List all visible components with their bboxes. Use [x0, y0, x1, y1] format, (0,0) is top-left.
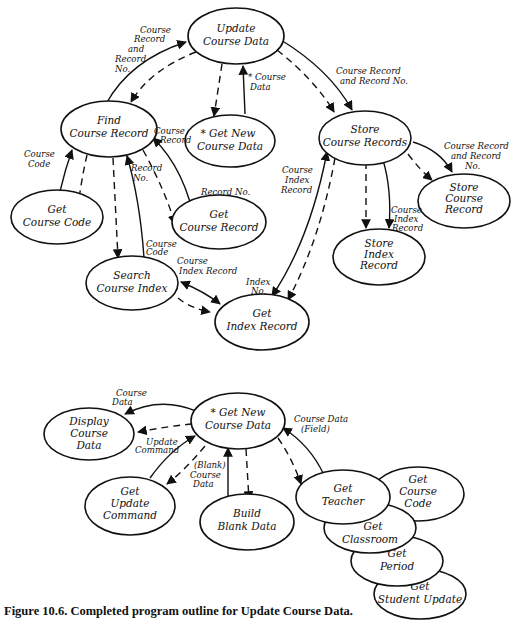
node-label-line: Blank Data — [217, 520, 277, 532]
flow-label-line: Record — [133, 34, 166, 44]
flow-label-course-index-record: Course Index Record — [280, 165, 313, 195]
flow-label-line: Course — [177, 256, 208, 266]
node-label-line: Get — [48, 203, 68, 215]
flow-label-line: Record — [159, 135, 192, 145]
flow-label-course-data: * Course Data — [248, 72, 286, 92]
flow-label-line: Record — [280, 185, 313, 195]
node-get-new-course-data-top: * Get New Course Data — [185, 115, 275, 167]
node-label-line: Get — [210, 208, 230, 220]
node-label-line: Get — [121, 485, 141, 497]
node-label-line: Store — [351, 123, 380, 135]
flow-label-line: Record No. — [200, 187, 250, 197]
node-label-line: Course Code — [23, 216, 91, 228]
edge-find-to-getrecord-dashed — [143, 150, 175, 224]
flow-label-line: (Blank) — [194, 460, 226, 470]
flow-label-course-index-record-search: Course Index Record — [177, 256, 238, 276]
edge-getnew-to-display — [125, 404, 196, 414]
figure-caption: Figure 10.6. Completed program outline f… — [4, 604, 353, 619]
node-label-line: Search — [113, 269, 150, 281]
edge-getnew-to-blank-dashed — [246, 449, 249, 500]
flow-label-line: Course — [282, 165, 313, 175]
node-label-line: Command — [103, 509, 157, 521]
flow-label-line: and Record — [451, 151, 502, 161]
node-label-line: Update — [111, 497, 150, 509]
node-label-line: Get — [253, 307, 273, 319]
edge-store-to-storeindex-solid — [383, 160, 390, 228]
node-store-index-record: Store Index Record — [333, 229, 425, 285]
node-find-course-record: Find Course Record — [61, 101, 157, 157]
flow-label-course-code: Course Code — [24, 149, 55, 169]
node-label-line: Find — [96, 114, 121, 126]
node-get-course-code: Get Course Code — [11, 190, 103, 244]
flow-label-line: Command — [135, 445, 180, 455]
flow-label-line: Record — [114, 54, 147, 64]
edge-getnew-to-update — [243, 66, 245, 114]
flow-label-index-no: Index No. — [245, 277, 271, 296]
node-get-update-command: Get Update Command — [85, 477, 175, 535]
flow-label-line: Code — [28, 159, 50, 169]
flow-label-course-data-display: Course Data — [111, 388, 147, 407]
node-label-line: Record — [359, 259, 398, 271]
node-label-line: Course — [70, 427, 108, 439]
flow-label-line: Record — [130, 163, 163, 173]
flow-label-line: and — [128, 44, 145, 54]
flow-label-line: Record — [391, 223, 424, 233]
flow-label-course-code-search: Course Code — [146, 239, 177, 257]
flow-label-line: Data — [111, 397, 133, 407]
edge-getnew-to-teacher-dashed — [278, 438, 301, 484]
flow-label-course-record-and-record-no: Course Record and Record No. — [114, 25, 171, 74]
edge-find-to-search-dashed — [113, 158, 118, 258]
node-search-course-index: Search Course Index — [86, 256, 178, 310]
flow-label-line: Course — [24, 149, 55, 159]
node-label-line: Course Record — [179, 221, 258, 233]
flow-label-course-record-and-record-no-right: Course Record and Record No. — [336, 66, 408, 86]
node-label-line: Get — [334, 482, 354, 494]
node-store-course-record: Store Course Record — [418, 174, 510, 228]
flow-label-course-record: Course Record — [154, 126, 192, 145]
node-label-line: Classroom — [342, 533, 398, 545]
node-label-line: Display — [68, 415, 110, 427]
node-label-line: Teacher — [322, 495, 366, 507]
flow-label-course-record-and-record-no-store: Course Record and Record No. — [444, 141, 509, 171]
edge-search-to-getindex-dashed — [178, 298, 210, 312]
node-label-line: Course Data — [197, 140, 263, 152]
node-label-line: Course Data — [205, 419, 271, 431]
flow-label-line: Course Record — [336, 66, 401, 76]
flow-label-record-no-get: Record No. — [200, 187, 250, 197]
node-label-line: Record — [444, 203, 483, 215]
node-label-line: * Get New — [210, 406, 265, 418]
node-build-blank-data: Build Blank Data — [200, 494, 294, 550]
node-label-line: Get — [364, 520, 384, 532]
flow-label-record-no: Record No. — [130, 163, 163, 183]
flow-label-line: No. — [250, 286, 266, 296]
flow-label-line: No. — [464, 161, 480, 171]
node-label-line: Data — [75, 439, 101, 451]
flow-label-line: Course Record — [444, 141, 509, 151]
node-label-line: Course Records — [323, 136, 408, 148]
flow-label-line: No. — [132, 173, 148, 183]
flow-label-line: Index — [284, 175, 310, 185]
flow-label-line: Index Record — [178, 266, 238, 276]
flow-label-course-data-field: Course Data (Field) — [294, 414, 348, 434]
node-label-line: Course Index — [97, 282, 168, 294]
flow-label-line: Code — [146, 247, 168, 257]
edge-store-to-storecourse-dashed — [408, 154, 432, 180]
node-label-line: Student Update — [378, 593, 462, 605]
node-label-line: Period — [379, 560, 415, 572]
node-label-line: Update — [217, 22, 256, 34]
program-outline-diagram: Update Course Data Find Course Record * … — [0, 0, 532, 631]
node-display-course-data: Display Course Data — [44, 408, 134, 460]
edge-teacher-to-getnew — [283, 428, 324, 475]
node-get-course-record: Get Course Record — [172, 195, 266, 249]
flow-label-line: and Record No. — [340, 76, 408, 86]
node-label-line: Code — [404, 497, 431, 509]
node-update-course-data: Update Course Data — [188, 8, 284, 64]
node-label-line: Index Record — [225, 320, 297, 332]
edge-search-getindex-solid — [181, 282, 220, 304]
flow-label-line: Data — [192, 479, 214, 489]
flow-label-line: No. — [114, 64, 130, 74]
flow-label-line: (Field) — [301, 424, 330, 434]
flow-label-course-index-record-store: Course Index Record — [391, 205, 424, 233]
node-label-line: Build — [232, 507, 261, 519]
edge-update-to-getnew-dashed — [214, 64, 222, 116]
